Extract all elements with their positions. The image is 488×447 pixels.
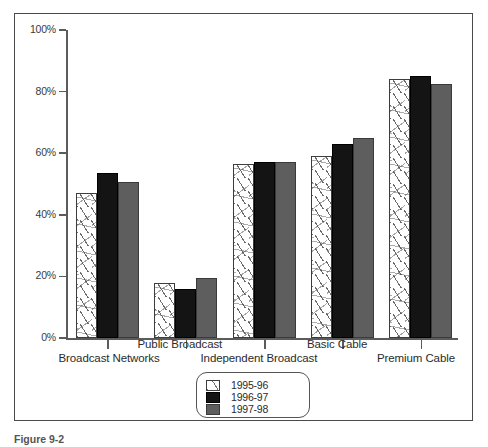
y-tick-label: 0%	[14, 331, 56, 343]
legend-label: 1997-98	[231, 403, 268, 415]
y-tick-80%	[59, 91, 66, 93]
y-axis-line	[66, 30, 68, 339]
x-tick	[264, 338, 266, 349]
bar	[76, 193, 97, 338]
bar-chart: 0%20%40%60%80%100% Broadcast NetworksPub…	[0, 0, 488, 447]
y-tick-label: 80%	[14, 85, 56, 97]
bar	[233, 164, 254, 338]
x-axis-line	[66, 338, 458, 340]
legend-label: 1996-97	[231, 391, 268, 403]
bar	[196, 278, 217, 338]
bar	[254, 162, 275, 338]
legend-label: 1995-96	[231, 379, 268, 391]
legend-item: 1996-97	[206, 391, 268, 403]
x-tick	[421, 338, 423, 349]
y-tick-label-wrap: 20%	[8, 269, 56, 281]
y-tick-label-wrap: 0%	[8, 331, 56, 343]
y-tick-40%	[59, 214, 66, 216]
bar	[311, 156, 332, 338]
bar	[118, 182, 139, 338]
y-tick-label: 60%	[14, 146, 56, 158]
legend-item: 1995-96	[206, 379, 268, 391]
bar	[175, 289, 196, 338]
y-tick-label: 40%	[14, 208, 56, 220]
bar	[353, 138, 374, 338]
bar	[97, 173, 118, 338]
y-tick-0%	[59, 337, 66, 339]
bar	[154, 283, 175, 338]
bar	[389, 79, 410, 338]
figure-caption: Figure 9-2	[14, 433, 64, 447]
category-label-basic-cable: Basic Cable	[307, 338, 367, 350]
bar	[332, 144, 353, 338]
y-tick-label-wrap: 80%	[8, 85, 56, 97]
x-tick	[107, 338, 109, 349]
y-tick-20%	[59, 276, 66, 278]
bar	[431, 84, 452, 338]
y-tick-60%	[59, 152, 66, 154]
y-tick-label-wrap: 100%	[8, 23, 56, 35]
y-tick-label-wrap: 60%	[8, 146, 56, 158]
y-tick-100%	[59, 29, 66, 31]
category-label-independent-broadcast: Independent Broadcast	[201, 352, 318, 364]
y-tick-label: 100%	[14, 23, 56, 35]
legend-swatch-icon	[206, 404, 220, 415]
category-label-premium-cable: Premium Cable	[377, 352, 455, 364]
y-tick-label-wrap: 40%	[8, 208, 56, 220]
chart-legend: 1995-961996-971997-98	[196, 372, 310, 418]
category-label-broadcast-networks: Broadcast Networks	[59, 352, 160, 364]
y-tick-label: 20%	[14, 269, 56, 281]
legend-item: 1997-98	[206, 403, 268, 415]
legend-swatch-icon	[206, 392, 220, 403]
category-label-public-broadcast: Public Broadcast	[138, 338, 223, 350]
bar	[275, 162, 296, 338]
legend-swatch-icon	[206, 380, 220, 391]
bar	[410, 76, 431, 338]
